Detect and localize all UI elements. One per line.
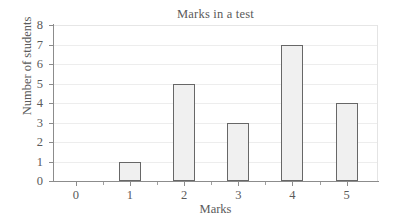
x-axis-line [53, 181, 379, 182]
y-axis-line [53, 24, 54, 182]
x-axis-title: Marks [53, 199, 378, 217]
y-tick-label: 6 [37, 56, 43, 72]
x-tick-label: 2 [170, 188, 198, 203]
gridline [53, 84, 378, 85]
x-tick-label: 5 [333, 188, 361, 203]
x-tick-label: 1 [116, 188, 144, 203]
plot-area: 012345678 012345 [53, 25, 378, 181]
bar-chart: Marks in a test Number of students Marks… [0, 0, 397, 220]
y-axis-title-text: Number of students [20, 17, 34, 116]
y-tick-label: 7 [37, 37, 43, 53]
bar [227, 123, 249, 182]
x-tick-label: 0 [62, 188, 90, 203]
gridline [53, 162, 378, 163]
y-tick-label: 8 [37, 17, 43, 33]
x-tick-label: 4 [278, 188, 306, 203]
bar [173, 84, 195, 182]
gridline [53, 25, 378, 26]
bar [336, 103, 358, 181]
y-tick-label: 2 [37, 134, 43, 150]
chart-title: Marks in a test [53, 7, 378, 22]
gridline [53, 123, 378, 124]
plot-right-frame [377, 25, 378, 181]
y-axis-title: Number of students [17, 0, 33, 136]
x-axis-title-text: Marks [200, 202, 232, 216]
bar [119, 162, 141, 182]
bar [281, 45, 303, 182]
gridline [53, 64, 378, 65]
gridline [53, 45, 378, 46]
y-tick-label: 0 [37, 173, 43, 189]
y-tick-label: 3 [37, 115, 43, 131]
y-tick-label: 4 [37, 95, 43, 111]
x-tick-label: 3 [224, 188, 252, 203]
y-tick-label: 1 [37, 154, 43, 170]
gridline [53, 142, 378, 143]
gridline [53, 103, 378, 104]
y-tick-label: 5 [37, 76, 43, 92]
